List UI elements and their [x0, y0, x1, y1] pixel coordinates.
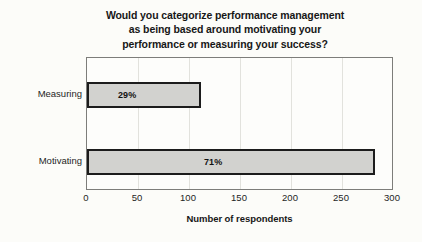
x-tick-200: 200	[282, 192, 298, 203]
chart-title: Would you categorize performance managem…	[60, 8, 390, 51]
plot-area: 29% 71%	[86, 57, 393, 190]
chart-title-line-1: Would you categorize performance managem…	[60, 8, 390, 22]
category-label-measuring: Measuring	[2, 88, 82, 99]
x-tick-300: 300	[384, 192, 400, 203]
category-axis-labels: Measuring Motivating	[0, 0, 82, 242]
x-tick-50: 50	[132, 192, 143, 203]
x-tick-0: 0	[83, 192, 88, 203]
bar-value-motivating: 71%	[204, 157, 222, 167]
bar-value-measuring: 29%	[118, 90, 136, 100]
chart-screenshot: Would you categorize performance managem…	[0, 0, 422, 242]
x-axis-tick-labels: 0 50 100 150 200 250 300	[86, 192, 393, 208]
chart-title-line-2: as being based around motivating your	[60, 22, 390, 36]
bar-motivating: 71%	[87, 149, 375, 175]
x-tick-250: 250	[333, 192, 349, 203]
x-axis-title: Number of respondents	[86, 213, 393, 224]
bar-measuring: 29%	[87, 82, 201, 108]
x-tick-150: 150	[231, 192, 247, 203]
category-label-motivating: Motivating	[2, 155, 82, 166]
x-tick-100: 100	[180, 192, 196, 203]
chart-title-line-3: performance or measuring your success?	[60, 37, 390, 51]
